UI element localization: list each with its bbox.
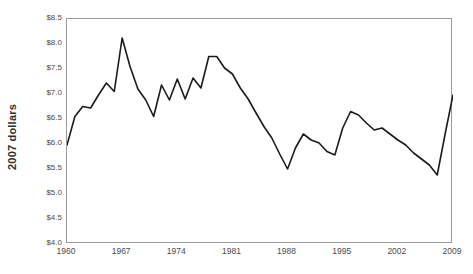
plot-area (66, 18, 452, 243)
data-line-2007-dollars (67, 38, 453, 175)
y-tick-label: $7.0 (26, 88, 62, 97)
y-tick-label: $7.5 (26, 63, 62, 72)
x-tick-label: 1960 (44, 246, 88, 256)
chart-figure: 2007 dollars $4.0$4.5$5.0$5.5$6.0$6.5$7.… (0, 0, 473, 274)
y-tick-label: $6.5 (26, 113, 62, 122)
x-tick-label: 1988 (265, 246, 309, 256)
x-tick-label: 1995 (320, 246, 364, 256)
y-tick-label: $4.5 (26, 213, 62, 222)
x-tick-label: 1967 (99, 246, 143, 256)
line-series-svg (67, 19, 453, 244)
x-tick-label: 2009 (430, 246, 473, 256)
y-tick-label: $5.0 (26, 188, 62, 197)
x-tick-label: 1974 (154, 246, 198, 256)
y-tick-label: $5.5 (26, 163, 62, 172)
x-tick-label: 2002 (375, 246, 419, 256)
y-tick-label: $8.5 (26, 13, 62, 22)
y-tick-label: $8.0 (26, 38, 62, 47)
y-axis-title: 2007 dollars (0, 0, 24, 274)
y-tick-label: $6.0 (26, 138, 62, 147)
x-tick-label: 1981 (209, 246, 253, 256)
